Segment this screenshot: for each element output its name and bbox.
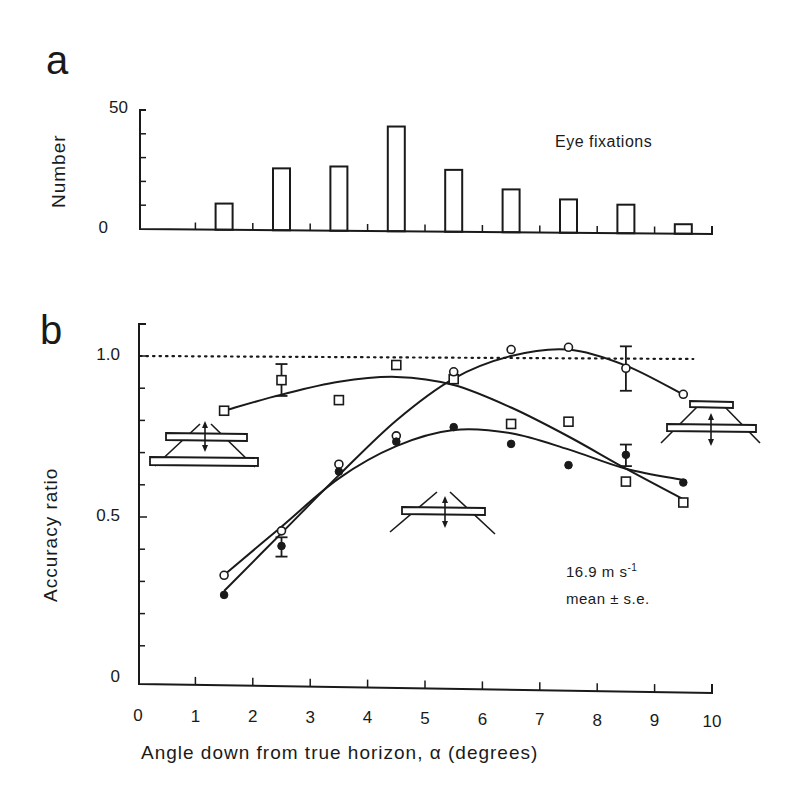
panel-a-axes [140,110,712,234]
data-point-open-square [392,361,401,370]
data-point-filled-circle [393,438,401,446]
data-point-open-circle [335,460,343,468]
panel-b-label: b [40,308,62,353]
reference-line-dotted [140,356,693,359]
panel-b-ytick-0: 0 [82,667,120,687]
panel-b-y-axis-label: Accuracy ratio [40,468,62,602]
data-point-open-circle [450,368,458,376]
data-point-filled-circle [507,440,515,448]
x-tick-label: 4 [353,708,383,728]
x-tick-label: 3 [295,708,325,728]
histogram-bar [330,166,347,230]
x-tick-label: 7 [525,710,555,730]
horizontal-bar [690,401,733,408]
horizontal-bar [166,433,247,441]
data-point-filled-circle [680,479,688,487]
data-point-open-square [564,417,573,426]
x-tick-label: 1 [180,707,210,727]
arrow-head-up [442,496,448,503]
arrow-head-up [202,421,208,428]
panel-b-x-axis-label: Angle down from true horizon, α (degrees… [141,742,538,764]
histogram-bar [675,224,692,234]
error-annotation: mean ± s.e. [566,590,650,607]
perspective-line [722,404,760,443]
data-point-filled-circle [622,451,630,459]
data-point-open-square [220,406,229,415]
histogram-bar [560,199,577,232]
histogram-bar [388,127,405,232]
x-tick-label: 5 [410,709,440,729]
panel-b-ytick-1: 1.0 [82,345,120,365]
data-point-open-circle [278,527,286,535]
data-point-open-circle [507,346,515,354]
fit-curve-filled-circle [224,429,683,575]
histogram-bar [445,170,462,232]
panel-a-annotation: Eye fixations [555,133,652,151]
horizon-bar [150,457,258,466]
figure [0,0,801,806]
arrow-head-down [202,445,208,452]
histogram-bar [273,168,290,230]
data-point-open-square [277,376,286,385]
horizontal-bar [402,507,485,515]
panel-a-ytick-0: 0 [88,218,108,238]
panel-b-ytick-05: 0.5 [82,506,120,526]
data-point-filled-circle [450,423,458,431]
fit-curve-open-square [224,377,683,499]
x-tick-label: 6 [467,710,497,730]
x-tick-label: 8 [582,711,612,731]
data-point-open-square [679,498,688,507]
x-tick-label: 2 [238,707,268,727]
data-point-filled-circle [278,542,286,550]
panel-a-histogram [140,110,712,234]
histogram-bar [216,204,233,230]
stimulus-icons [150,401,760,534]
diverging-lines-bar-icon [661,401,760,446]
data-point-filled-circle [335,468,343,476]
x-tick-label: 10 [697,712,727,732]
arrow-head-up [708,413,714,420]
histogram-bar [503,189,520,232]
x-tick-label: 0 [123,706,153,726]
data-point-open-circle [622,364,630,372]
data-point-filled-circle [565,461,573,469]
data-point-filled-circle [220,591,228,599]
arrow-head-down [708,439,714,446]
crossing-lines-bar-icon [390,492,495,534]
arrow-head-down [442,521,448,528]
data-point-open-circle [565,343,573,351]
data-point-open-circle [679,390,687,398]
panel-a-y-axis-label: Number [48,134,70,208]
data-point-open-square [621,477,630,486]
data-point-open-square [334,396,343,405]
histogram-bar [617,205,634,234]
converging-lines-bar-icon [150,421,258,467]
speed-annotation: 16.9 m s-1 [566,562,637,580]
data-point-open-circle [220,571,228,579]
panel-a-label: a [46,38,68,83]
data-point-open-square [507,419,516,428]
panel-a-ytick-50: 50 [88,98,128,118]
x-tick-label: 9 [640,711,670,731]
